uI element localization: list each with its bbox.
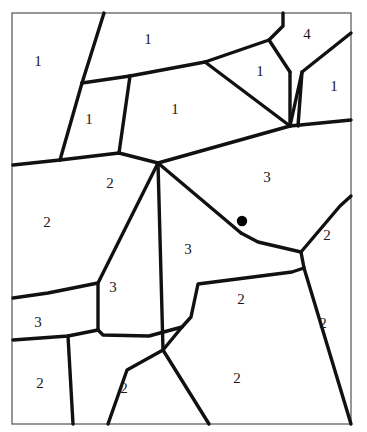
cell-label-2e: 2 xyxy=(319,315,327,331)
region-edge xyxy=(108,350,163,424)
cell-label-2d: 2 xyxy=(237,291,245,307)
region-edge xyxy=(158,163,241,233)
region-edge xyxy=(98,327,182,336)
region-edge xyxy=(13,283,98,298)
region-edge xyxy=(130,62,205,76)
region-edge xyxy=(269,13,283,40)
cell-label-2b: 2 xyxy=(43,214,51,230)
cell-label-1c: 1 xyxy=(256,63,264,79)
cell-label-1e: 1 xyxy=(85,111,93,127)
cell-label-3b: 3 xyxy=(184,241,192,257)
region-edge xyxy=(304,268,351,424)
cell-label-2g: 2 xyxy=(120,380,128,396)
cell-label-2f: 2 xyxy=(36,375,44,391)
cell-label-1d: 1 xyxy=(330,78,338,94)
region-edge xyxy=(68,336,73,424)
region-edge xyxy=(241,233,301,252)
region-edge xyxy=(163,350,209,424)
cell-label-2h: 2 xyxy=(233,370,241,386)
label-group: 1141111232233232222 xyxy=(34,26,338,396)
cell-label-4: 4 xyxy=(303,26,311,42)
region-edge xyxy=(13,330,98,340)
cell-label-2c: 2 xyxy=(323,227,331,243)
black-dot xyxy=(237,216,247,226)
cell-label-1b: 1 xyxy=(144,31,152,47)
region-edge xyxy=(60,153,119,160)
region-edge xyxy=(301,252,304,268)
cell-label-3c: 3 xyxy=(109,279,117,295)
cell-label-3a: 3 xyxy=(263,169,271,185)
region-edge xyxy=(269,40,290,72)
region-edge xyxy=(119,153,158,163)
region-edge xyxy=(158,126,290,163)
cell-label-1f: 1 xyxy=(171,101,179,117)
region-edge xyxy=(13,160,60,165)
diagram-canvas: 1141111232233232222 xyxy=(0,0,367,432)
region-edge xyxy=(205,62,290,126)
cell-label-2a: 2 xyxy=(106,175,114,191)
region-edge xyxy=(82,76,130,83)
region-edge xyxy=(82,13,104,83)
edge-group xyxy=(13,13,351,424)
region-edge xyxy=(158,163,163,350)
planar-subdivision-figure: 1141111232233232222 xyxy=(0,0,367,432)
region-edge xyxy=(119,76,130,153)
region-edge xyxy=(60,83,82,160)
cell-label-3d: 3 xyxy=(34,314,42,330)
region-edge xyxy=(205,40,269,62)
region-edge xyxy=(301,196,351,252)
cell-label-1a: 1 xyxy=(34,53,42,69)
